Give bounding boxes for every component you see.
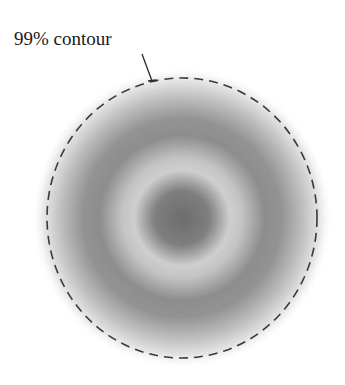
ring-pattern-diagram <box>0 0 345 385</box>
intensity-rings <box>30 61 334 375</box>
